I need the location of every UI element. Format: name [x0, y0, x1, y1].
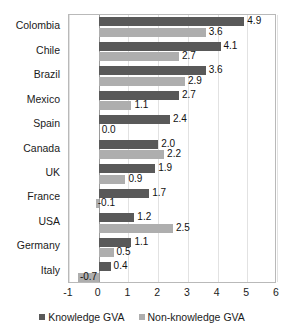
data-label: 2.7 [182, 90, 196, 100]
data-label: -0.1 [98, 198, 115, 208]
plot-area: 4.93.64.12.73.62.92.71.12.40.02.02.21.90… [68, 14, 276, 283]
bar-chart: ColombiaChileBrazilMexicoSpainCanadaUKFr… [0, 0, 284, 331]
data-label: 1.1 [134, 100, 148, 110]
data-label: 2.0 [161, 139, 175, 149]
data-label: 4.1 [224, 41, 238, 51]
legend-label: Non-knowledge GVA [148, 312, 245, 323]
x-tick-label: 5 [243, 286, 249, 298]
x-tick-label: 0 [95, 286, 101, 298]
data-label: 1.9 [158, 163, 172, 173]
category-label: Chile [0, 45, 60, 56]
x-tick-label: 4 [214, 286, 220, 298]
bar [99, 213, 135, 222]
category-label: Spain [0, 118, 60, 129]
x-tick-label: 3 [184, 286, 190, 298]
chart-legend: Knowledge GVA Non-knowledge GVA [0, 309, 284, 325]
bar [99, 52, 179, 61]
bar [99, 28, 206, 37]
x-tick-label: 1 [125, 286, 131, 298]
data-label: 3.6 [209, 27, 223, 37]
category-axis-labels: ColombiaChileBrazilMexicoSpainCanadaUKFr… [0, 14, 64, 283]
legend-item-knowledge-gva: Knowledge GVA [39, 312, 124, 323]
category-label: France [0, 191, 60, 202]
legend-item-non-knowledge-gva: Non-knowledge GVA [139, 312, 245, 323]
gridline [218, 15, 219, 282]
x-tick-label: 6 [273, 286, 279, 298]
bar [99, 175, 126, 184]
x-tick-label: 2 [154, 286, 160, 298]
bar [99, 101, 132, 110]
category-label: Italy [0, 265, 60, 276]
bar [99, 77, 185, 86]
bar [99, 164, 155, 173]
bar [99, 115, 170, 124]
data-label: 0.9 [128, 174, 142, 184]
bar [99, 150, 164, 159]
gridline [247, 15, 248, 282]
data-label: 2.5 [176, 223, 190, 233]
data-label: 0.5 [117, 247, 131, 257]
bar [99, 42, 221, 51]
gridline [277, 15, 278, 282]
category-label: UK [0, 167, 60, 178]
data-label: 0.0 [102, 125, 116, 135]
data-label: 2.7 [182, 51, 196, 61]
bar [99, 262, 111, 271]
category-label: USA [0, 216, 60, 227]
data-label: 1.1 [134, 237, 148, 247]
category-label: Mexico [0, 94, 60, 105]
data-label: 2.2 [167, 149, 181, 159]
data-label: -0.7 [80, 272, 97, 282]
category-label: Brazil [0, 69, 60, 80]
gridline [69, 15, 70, 282]
bar [99, 224, 173, 233]
category-label: Colombia [0, 20, 60, 31]
legend-swatch-icon [139, 314, 145, 320]
bar [99, 140, 158, 149]
data-label: 2.9 [188, 76, 202, 86]
category-label: Canada [0, 143, 60, 154]
data-label: 4.9 [247, 16, 261, 26]
data-label: 1.7 [152, 188, 166, 198]
x-axis-tick-labels: -10123456 [68, 286, 276, 300]
data-label: 1.2 [137, 212, 151, 222]
data-label: 2.4 [173, 114, 187, 124]
legend-label: Knowledge GVA [48, 312, 124, 323]
category-label: Germany [0, 240, 60, 251]
bar [99, 248, 114, 257]
data-label: 3.6 [209, 65, 223, 75]
x-tick-label: -1 [63, 286, 72, 298]
data-label: 0.4 [114, 261, 128, 271]
legend-swatch-icon [39, 314, 45, 320]
